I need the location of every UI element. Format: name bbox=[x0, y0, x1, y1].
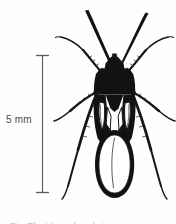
pronotum bbox=[94, 68, 135, 94]
scale-bar-graphic bbox=[0, 0, 60, 224]
insect-illustration: .ink { fill:#121212; } .inkln { stroke:#… bbox=[52, 4, 176, 212]
foreleg-left bbox=[56, 37, 104, 74]
figure-caption: Fig. Plant bug, dorsal view bbox=[10, 221, 170, 224]
scale-bar: 5 mm bbox=[0, 0, 60, 224]
hindleg-left bbox=[62, 88, 99, 199]
insect-svg: .ink { fill:#121212; } .inkln { stroke:#… bbox=[52, 4, 176, 212]
figure-root: 5 mm .ink { fill:#121212; } .inkln { str… bbox=[0, 0, 176, 224]
scale-bar-label: 5 mm bbox=[6, 114, 40, 126]
antenna-right bbox=[119, 13, 149, 67]
hindleg-right bbox=[130, 88, 167, 199]
